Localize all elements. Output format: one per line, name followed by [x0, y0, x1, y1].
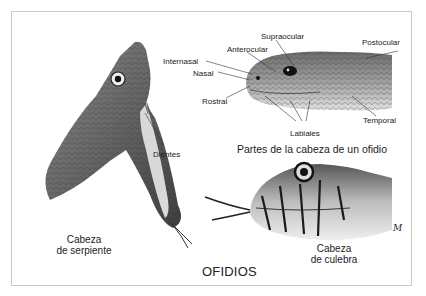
- colubrid-caption-line2: de culebra: [299, 254, 369, 265]
- label-dientes: Dientes: [153, 150, 180, 159]
- label-supraocular: Supraocular: [261, 32, 304, 41]
- serpent-caption-line1: Cabeza: [44, 234, 124, 245]
- label-temporal: Temporal: [363, 116, 396, 125]
- colubrid-caption: Cabeza de culebra: [299, 243, 369, 265]
- label-rostral: Rostral: [202, 97, 227, 106]
- figure-title: OFIDIOS: [202, 264, 257, 279]
- parts-head-drawing: [246, 52, 392, 111]
- artist-signature: M: [393, 224, 402, 233]
- label-internasal: Internasal: [163, 57, 198, 66]
- serpent-head-drawing: [45, 42, 192, 248]
- label-labiales: Labiales: [290, 129, 320, 138]
- label-postocular: Postocular: [362, 38, 400, 47]
- serpent-caption: Cabeza de serpiente: [44, 234, 124, 256]
- label-nasal: Nasal: [193, 69, 213, 78]
- serpent-caption-line2: de serpiente: [44, 245, 124, 256]
- label-anterocular: Anterocular: [227, 45, 268, 54]
- parts-caption: Partes de la cabeza de un ofidio: [237, 144, 387, 155]
- colubrid-caption-line1: Cabeza: [299, 243, 369, 254]
- colubrid-head-drawing: [205, 163, 392, 240]
